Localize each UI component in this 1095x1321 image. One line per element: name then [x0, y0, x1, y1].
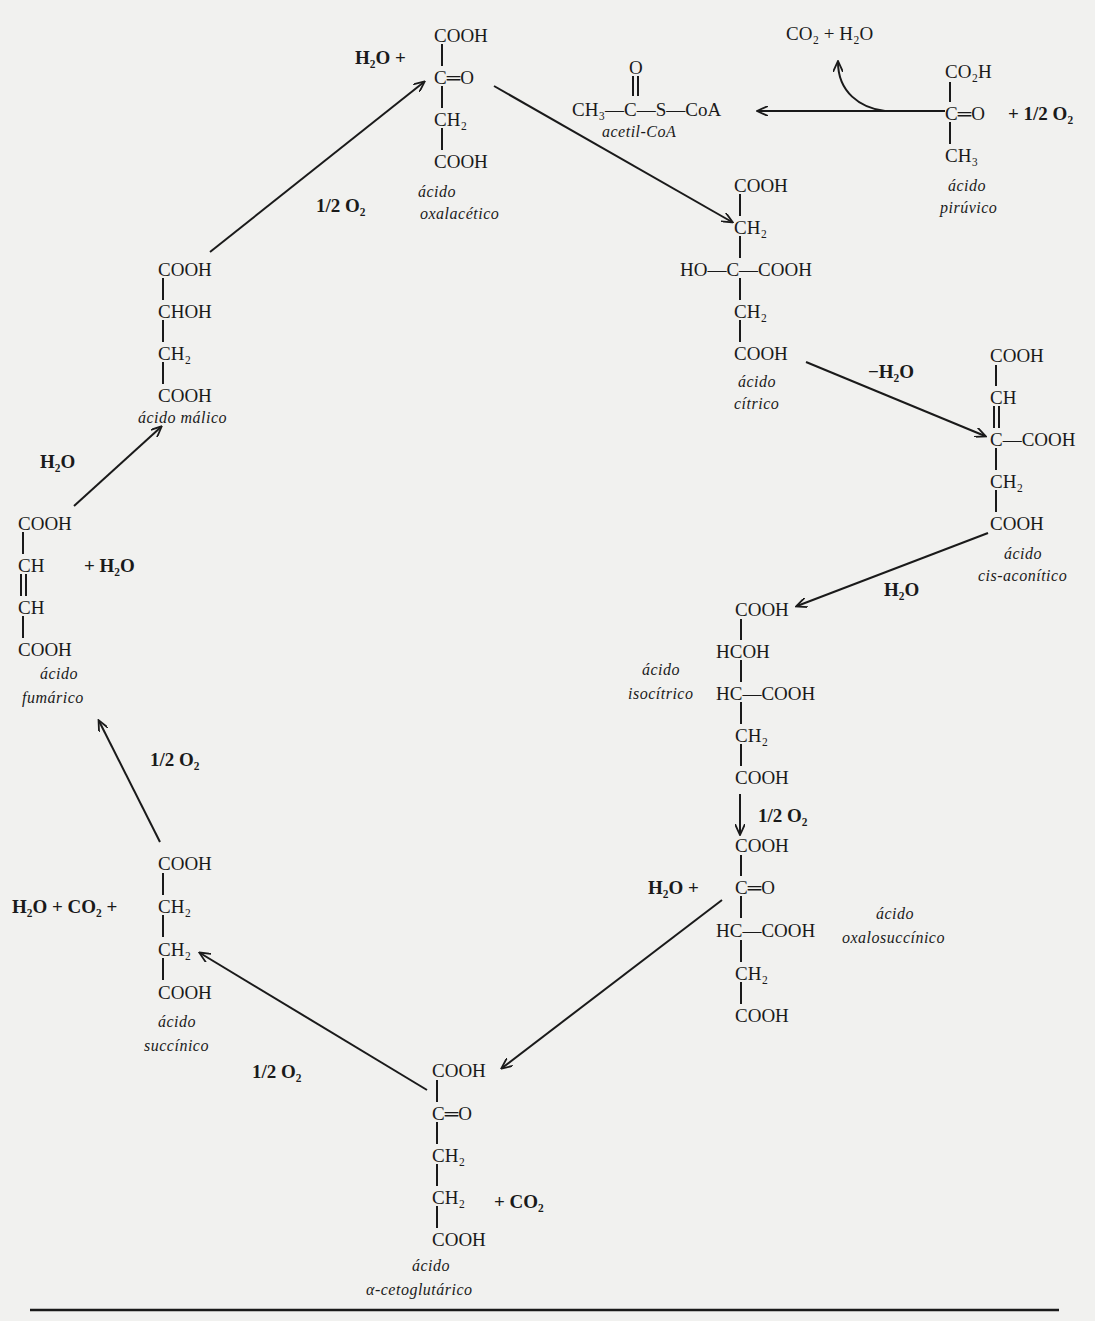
label-half-o2-malico: 1/2 O₂	[316, 196, 366, 215]
piruvico-line-1: CO₂H	[945, 62, 992, 81]
cetoglutarico-name-2: α-cetoglutárico	[366, 1282, 473, 1298]
fumarico-line-3: CH	[18, 598, 44, 617]
isocitrico-name-1: ácido	[642, 662, 680, 678]
cetoglutarico-name-1: ácido	[412, 1258, 450, 1274]
succinico-line-2: CH₂	[158, 897, 191, 916]
oxalosuccinico-line-1: COOH	[735, 836, 789, 855]
cetoglutarico-line-3: CH₂	[432, 1146, 465, 1165]
malico-line-4: COOH	[158, 386, 212, 405]
cetoglutarico-line-2: C═O	[432, 1104, 472, 1123]
oxalosuccinico-name-1: ácido	[876, 906, 914, 922]
malico-line-2: CHOH	[158, 302, 212, 321]
fumarico-name-1: ácido	[40, 666, 78, 682]
piruvico-name-1: ácido	[948, 178, 986, 194]
oxalosuccinico-line-3: HC—COOH	[716, 921, 815, 940]
succinico-line-3: CH₂	[158, 940, 191, 959]
cis-aconitico-line-2: CH	[990, 388, 1016, 407]
label-h2o-isocitrico: H₂O	[884, 580, 919, 599]
oxalacetico-name-1: ácido	[418, 184, 456, 200]
citrico-line-4: CH₂	[734, 302, 767, 321]
malico-line-1: COOH	[158, 260, 212, 279]
piruvico-line-3: CH₃	[945, 146, 978, 165]
cis-aconitico-name-1: ácido	[1004, 546, 1042, 562]
cetoglutarico-line-4: CH₂	[432, 1188, 465, 1207]
oxalacetico-line-1: COOH	[434, 26, 488, 45]
label-half-o2-succinico: 1/2 O₂	[150, 750, 200, 769]
fumarico-reactant: + H₂O	[84, 556, 135, 575]
isocitrico-line-2: HCOH	[716, 642, 770, 661]
fumarico-line-1: COOH	[18, 514, 72, 533]
oxalosuccinico-name-2: oxalosuccínico	[842, 930, 945, 946]
cis-aconitico-line-3: C—COOH	[990, 430, 1076, 449]
cis-aconitico-line-5: COOH	[990, 514, 1044, 533]
cis-aconitico-line-1: COOH	[990, 346, 1044, 365]
oxalacetico-name-2: oxalacético	[420, 206, 499, 222]
citrico-name-2: cítrico	[734, 396, 779, 412]
fumarico-line-4: COOH	[18, 640, 72, 659]
succinico-line-4: COOH	[158, 983, 212, 1002]
isocitrico-line-1: COOH	[735, 600, 789, 619]
oxalacetico-line-2: C═O	[434, 68, 474, 87]
oxalosuccinico-line-2: C═O	[735, 878, 775, 897]
oxalacetico-line-4: COOH	[434, 152, 488, 171]
acetil-coa-formula: CH₃—C—S—CoA	[572, 100, 721, 119]
reaction-arrows	[0, 0, 1095, 1321]
isocitrico-line-4: CH₂	[735, 726, 768, 745]
cis-aconitico-line-4: CH₂	[990, 472, 1023, 491]
label-h2o-fumarico: H₂O	[40, 452, 75, 471]
acetil-coa-carbonyl-o: O	[629, 58, 643, 77]
succinico-line-1: COOH	[158, 854, 212, 873]
citrico-line-3: HO—C—COOH	[680, 260, 812, 279]
succinico-name-2: succínico	[144, 1038, 209, 1054]
citrico-line-1: COOH	[734, 176, 788, 195]
piruvico-name-2: pirúvico	[940, 200, 997, 216]
piruvico-line-2: C═O	[945, 104, 985, 123]
isocitrico-line-3: HC—COOH	[716, 684, 815, 703]
piruvico-reactant: + 1/2 O₂	[1008, 104, 1073, 123]
cetoglutarico-product: + CO₂	[494, 1192, 544, 1211]
citrico-line-5: COOH	[734, 344, 788, 363]
isocitrico-name-2: isocítrico	[628, 686, 693, 702]
oxalacetico-line-3: CH₂	[434, 110, 467, 129]
succinico-name-1: ácido	[158, 1014, 196, 1030]
label-minus-h2o: −H₂O	[868, 362, 914, 381]
oxalosuccinico-reactant: H₂O +	[648, 878, 699, 897]
isocitrico-line-5: COOH	[735, 768, 789, 787]
label-half-o2-cetoglutarico: 1/2 O₂	[252, 1062, 302, 1081]
fumarico-name-2: fumárico	[22, 690, 84, 706]
succinico-reactant: H₂O + CO₂ +	[12, 897, 117, 916]
malico-line-3: CH₂	[158, 344, 191, 363]
citrico-name-1: ácido	[738, 374, 776, 390]
cetoglutarico-line-1: COOH	[432, 1061, 486, 1080]
piruvico-byproduct: CO₂ + H₂O	[786, 24, 873, 43]
oxalacetico-reactant: H₂O +	[355, 48, 406, 67]
cis-aconitico-name-2: cis-aconítico	[978, 568, 1067, 584]
label-half-o2-isocitrico: 1/2 O₂	[758, 806, 808, 825]
oxalosuccinico-line-4: CH₂	[735, 964, 768, 983]
fumarico-line-2: CH	[18, 556, 44, 575]
oxalosuccinico-line-5: COOH	[735, 1006, 789, 1025]
citrico-line-2: CH₂	[734, 218, 767, 237]
acetil-coa-name: acetil-CoA	[602, 124, 676, 140]
malico-name: ácido málico	[138, 410, 227, 426]
cetoglutarico-line-5: COOH	[432, 1230, 486, 1249]
